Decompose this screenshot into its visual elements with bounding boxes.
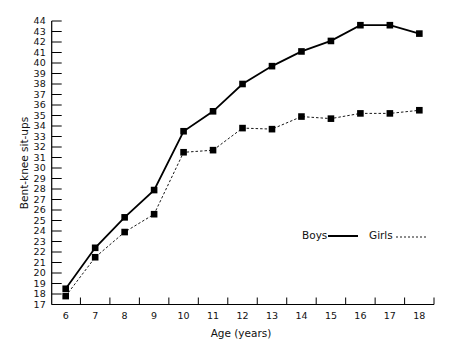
y-tick-label: 23 (34, 236, 46, 247)
data-point-boys (151, 187, 158, 194)
y-tick-label: 35 (34, 110, 46, 121)
data-point-boys (357, 22, 364, 29)
y-tick-label: 36 (34, 99, 46, 110)
data-point-girls (151, 211, 158, 218)
legend: Boys Girls (302, 229, 427, 241)
data-point-boys (180, 128, 187, 135)
data-point-girls (210, 147, 217, 154)
y-tick-label: 30 (34, 162, 46, 173)
y-tick-label: 43 (34, 26, 46, 37)
x-tick-label: 7 (92, 310, 98, 321)
data-point-girls (239, 125, 246, 132)
y-tick-label: 22 (34, 246, 46, 257)
data-point-boys (92, 245, 99, 252)
x-axis-title: Age (years) (211, 327, 272, 339)
data-point-girls (298, 113, 305, 120)
data-point-boys (328, 38, 335, 45)
y-tick-label: 18 (34, 288, 46, 299)
x-tick-label: 6 (63, 310, 69, 321)
y-tick-label: 31 (34, 152, 46, 163)
data-point-girls (416, 107, 423, 114)
y-tick-label: 21 (34, 257, 46, 268)
data-point-boys (416, 30, 423, 37)
series-line-girls (66, 110, 420, 296)
x-tick-label: 11 (207, 310, 219, 321)
data-point-boys (239, 81, 246, 88)
y-tick-label: 33 (34, 131, 46, 142)
data-point-girls (357, 110, 364, 117)
data-point-girls (180, 149, 187, 156)
series-line-boys (66, 25, 420, 289)
y-tick-label: 24 (34, 225, 46, 236)
data-point-girls (62, 293, 69, 300)
data-point-girls (92, 254, 99, 261)
y-tick-label: 27 (34, 194, 46, 205)
data-point-girls (121, 229, 128, 236)
x-tick-label: 17 (384, 310, 396, 321)
data-point-girls (269, 126, 276, 133)
y-tick-label: 19 (34, 278, 46, 289)
x-tick-label: 8 (122, 310, 128, 321)
x-axis: 6789101112131415161718 (52, 298, 434, 322)
x-tick-label: 15 (325, 310, 337, 321)
x-tick-label: 12 (236, 310, 248, 321)
x-tick-label: 13 (266, 310, 278, 321)
legend-label-boys: Boys (302, 229, 327, 241)
data-point-boys (121, 214, 128, 221)
x-tick-label: 10 (178, 310, 190, 321)
y-tick-label: 32 (34, 141, 46, 152)
y-tick-label: 17 (34, 299, 46, 310)
data-point-boys (298, 48, 305, 55)
x-tick-label: 9 (151, 310, 157, 321)
data-point-boys (210, 108, 217, 115)
y-axis-title: Bent-knee sit-ups (18, 117, 30, 209)
data-point-girls (328, 115, 335, 122)
x-tick-label: 16 (354, 310, 366, 321)
x-tick-label: 18 (413, 310, 425, 321)
data-point-boys (387, 22, 394, 29)
data-point-girls (387, 110, 394, 117)
y-axis: 1718192021222324252627282930313233343536… (34, 15, 62, 310)
y-tick-label: 39 (34, 68, 46, 79)
data-point-boys (62, 285, 69, 292)
y-tick-label: 38 (34, 78, 46, 89)
y-tick-label: 44 (34, 15, 46, 26)
legend-label-girls: Girls (369, 229, 393, 241)
y-tick-label: 37 (34, 89, 46, 100)
line-chart: 1718192021222324252627282930313233343536… (0, 0, 451, 356)
y-tick-label: 40 (34, 57, 46, 68)
y-tick-label: 25 (34, 215, 46, 226)
y-tick-label: 29 (34, 173, 46, 184)
y-tick-label: 42 (34, 36, 46, 47)
data-point-boys (269, 63, 276, 70)
y-tick-label: 20 (34, 267, 46, 278)
y-tick-label: 34 (34, 120, 46, 131)
x-tick-label: 14 (295, 310, 307, 321)
y-tick-label: 41 (34, 47, 46, 58)
series-layer (62, 22, 422, 300)
y-tick-label: 26 (34, 204, 46, 215)
y-tick-label: 28 (34, 183, 46, 194)
